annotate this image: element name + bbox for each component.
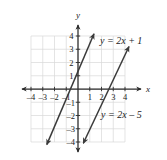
x-tick-label-1: 1 xyxy=(88,92,92,102)
y-tick-label-neg3: –3 xyxy=(66,124,76,134)
x-tick-label-4: 4 xyxy=(123,92,128,102)
equation-label-line1: y = 2x + 1 xyxy=(99,35,142,46)
x-tick-label-neg3: –3 xyxy=(38,92,48,102)
coordinate-plane-svg: –4 –3 –2 –1 1 2 3 4 4 3 2 1 –1 –2 –3 –4 … xyxy=(0,0,167,160)
y-tick-label-neg4: –4 xyxy=(66,137,76,147)
x-tick-label-neg4: –4 xyxy=(26,92,36,102)
x-tick-labels: –4 –3 –2 –1 1 2 3 4 xyxy=(26,92,128,102)
graph-figure: –4 –3 –2 –1 1 2 3 4 4 3 2 1 –1 –2 –3 –4 … xyxy=(0,0,167,160)
y-tick-label-1: 1 xyxy=(69,71,73,81)
y-axis-label: y xyxy=(75,10,80,20)
y-tick-label-neg2: –2 xyxy=(66,111,76,121)
y-tick-label-2: 2 xyxy=(69,58,73,68)
y-tick-label-3: 3 xyxy=(69,44,73,54)
x-tick-label-neg2: –2 xyxy=(49,92,59,102)
x-tick-label-3: 3 xyxy=(111,92,115,102)
equation-label-line2: y = 2x – 5 xyxy=(100,109,142,120)
x-axis-label: x xyxy=(145,84,150,94)
